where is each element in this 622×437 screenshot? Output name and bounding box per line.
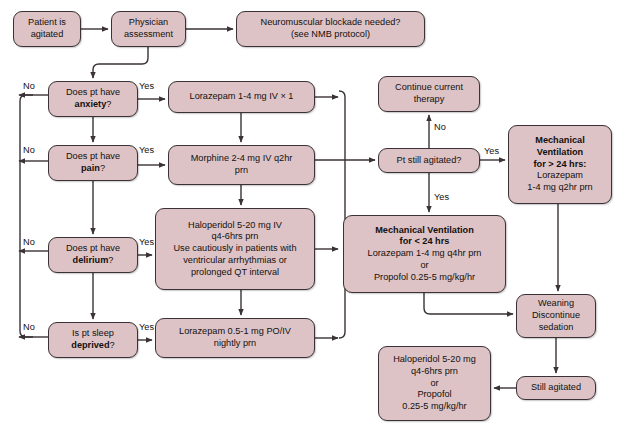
- edge-label-lbl_yes_anxiety: Yes: [139, 81, 154, 91]
- node-label: Does pt haveanxiety?: [53, 87, 133, 111]
- edge-physician-to-anxiety: [93, 47, 148, 78]
- node-label: Physicianassessment: [116, 17, 181, 41]
- node-label: Lorazepam 0.5-1 mg PO/IVnightly prn: [160, 326, 310, 350]
- edge-label-lbl_yes_agitated_down: Yes: [434, 192, 449, 202]
- edge-right-collector-rail: [339, 91, 345, 338]
- node-rx_lorazepam2: Lorazepam 0.5-1 mg PO/IVnightly prn: [155, 318, 315, 358]
- node-label: Morphine 2-4 mg IV q2hrprn: [173, 153, 310, 177]
- node-q_sleep: Is pt sleepdeprived?: [48, 322, 138, 358]
- flowchart-canvas: Patient isagitatedPhysicianassessmentNeu…: [0, 0, 622, 437]
- node-rx_lorazepam1: Lorazepam 1-4 mg IV × 1: [168, 81, 315, 113]
- node-rx_haloperidol: Haloperidol 5-20 mg IVq4-6hrs prnUse cau…: [155, 208, 315, 290]
- node-q_still_agitated: Pt still agitated?: [378, 148, 480, 173]
- node-label: Patient isagitated: [18, 17, 76, 41]
- node-label: Still agitated: [521, 382, 591, 394]
- node-label: Continue currenttherapy: [383, 82, 475, 106]
- edge-label-lbl_no_anxiety: No: [23, 81, 35, 91]
- node-mv_gt24: MechanicalVentilationfor > 24 hrs:Loraze…: [508, 125, 612, 204]
- node-rx_morphine: Morphine 2-4 mg IV q2hrprn: [168, 145, 315, 185]
- node-q_anxiety: Does pt haveanxiety?: [48, 81, 138, 117]
- node-label: Mechanical Ventilationfor < 24 hrsLoraze…: [348, 225, 501, 284]
- node-q_delirium: Does pt havedelirium?: [48, 237, 138, 273]
- edge-label-lbl_no_sleep: No: [23, 322, 35, 332]
- edge-label-lbl_yes_sleep: Yes: [139, 322, 154, 332]
- node-physician_assessment: Physicianassessment: [111, 11, 186, 47]
- edge-label-lbl_no_pain: No: [23, 145, 35, 155]
- edge-left-collector-rail: [20, 101, 33, 337]
- node-mv_lt24: Mechanical Ventilationfor < 24 hrsLoraze…: [343, 215, 506, 293]
- node-label: Pt still agitated?: [383, 155, 475, 167]
- node-label: Does pt havedelirium?: [53, 243, 133, 267]
- node-label: Neuromuscular blockade needed?(see NMB p…: [241, 17, 420, 41]
- edge-left-collector-top: [20, 95, 33, 101]
- edge-label-lbl_yes_delirium: Yes: [139, 237, 154, 247]
- edge-label-lbl_yes_pain: Yes: [139, 145, 154, 155]
- node-label: Haloperidol 5-20 mg IVq4-6hrs prnUse cau…: [160, 220, 310, 279]
- edge-label-lbl_no_delirium: No: [23, 237, 35, 247]
- node-nmb: Neuromuscular blockade needed?(see NMB p…: [236, 11, 425, 47]
- node-label: Is pt sleepdeprived?: [53, 328, 133, 352]
- node-label: WeaningDiscontinuesedation: [521, 298, 591, 333]
- node-q_pain: Does pt havepain?: [48, 145, 138, 181]
- node-continue_therapy: Continue currenttherapy: [378, 76, 480, 112]
- node-label: Haloperidol 5-20 mgq4-6hrs prnorPropofol…: [383, 354, 486, 413]
- edge-mv-lt24-to-weaning: [424, 293, 513, 314]
- node-weaning: WeaningDiscontinuesedation: [516, 294, 596, 338]
- node-patient_agitated: Patient isagitated: [13, 11, 81, 47]
- edge-label-lbl_no_agitated: No: [434, 122, 446, 132]
- node-still_agitated: Still agitated: [516, 376, 596, 400]
- node-label: Lorazepam 1-4 mg IV × 1: [173, 91, 310, 103]
- node-rx_haloperidol2: Haloperidol 5-20 mgq4-6hrs prnorPropofol…: [378, 346, 491, 421]
- node-label: Does pt havepain?: [53, 151, 133, 175]
- edge-label-lbl_yes_agitated_right: Yes: [484, 146, 499, 156]
- node-label: MechanicalVentilationfor > 24 hrs:Loraze…: [513, 135, 607, 194]
